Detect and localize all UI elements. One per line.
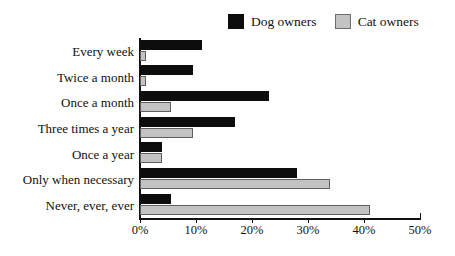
x-axis-tick-label: 0% — [132, 224, 149, 237]
bar-dog-owners — [140, 142, 162, 152]
category-label: Once a month — [61, 96, 134, 109]
chart-legend: Dog owners Cat owners — [228, 14, 419, 29]
x-axis-tick — [420, 213, 421, 220]
bar-dog-owners — [140, 168, 297, 178]
legend-swatch-dog-owners-icon — [228, 14, 244, 29]
legend-label-cat-owners: Cat owners — [358, 15, 419, 29]
category-label: Every week — [72, 44, 134, 57]
plot-area: 0%10%20%30%40%50% Every weekTwice a mont… — [140, 38, 420, 218]
x-axis-tick-label: 40% — [353, 224, 376, 237]
legend-label-dog-owners: Dog owners — [251, 15, 317, 29]
bar-cat-owners — [140, 128, 193, 138]
bar-cat-owners — [140, 179, 330, 189]
bar-dog-owners — [140, 40, 202, 50]
bar-row: Every week — [140, 38, 420, 64]
bar-dog-owners — [140, 194, 171, 204]
bar-row: Twice a month — [140, 64, 420, 90]
bar-cat-owners — [140, 153, 162, 163]
x-axis-tick-label: 30% — [297, 224, 320, 237]
category-label: Three times a year — [38, 121, 134, 134]
x-axis-tick-label: 10% — [185, 224, 208, 237]
bar-row: Three times a year — [140, 115, 420, 141]
category-label: Twice a month — [57, 70, 134, 83]
bar-dog-owners — [140, 117, 235, 127]
bar-cat-owners — [140, 76, 146, 86]
bar-cat-owners — [140, 205, 370, 215]
x-axis-tick-label: 20% — [241, 224, 264, 237]
x-axis-line — [139, 218, 421, 220]
legend-entry-dog-owners: Dog owners — [228, 14, 317, 29]
bar-chart: Dog owners Cat owners 0%10%20%30%40%50% … — [0, 0, 455, 256]
category-label: Never, ever, ever — [46, 199, 134, 212]
bar-cat-owners — [140, 102, 171, 112]
bar-cat-owners — [140, 51, 146, 61]
bar-dog-owners — [140, 91, 269, 101]
bar-row: Only when necessary — [140, 167, 420, 193]
x-axis-tick-label: 50% — [409, 224, 432, 237]
category-label: Once a year — [72, 147, 134, 160]
bar-dog-owners — [140, 65, 193, 75]
category-label: Only when necessary — [23, 173, 134, 186]
legend-swatch-cat-owners-icon — [335, 14, 351, 29]
legend-entry-cat-owners: Cat owners — [335, 14, 419, 29]
bar-row: Once a month — [140, 89, 420, 115]
bar-row: Once a year — [140, 141, 420, 167]
bar-row: Never, ever, ever — [140, 192, 420, 218]
